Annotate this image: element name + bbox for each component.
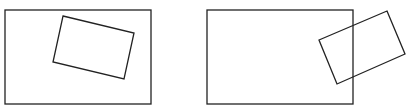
outer-rectangle-right <box>207 10 353 104</box>
panel-left <box>5 10 151 104</box>
panel-right <box>207 10 405 104</box>
rotated-rectangle-left <box>53 16 134 79</box>
rotated-rectangle-right <box>319 11 405 84</box>
diagram-canvas <box>0 0 409 108</box>
